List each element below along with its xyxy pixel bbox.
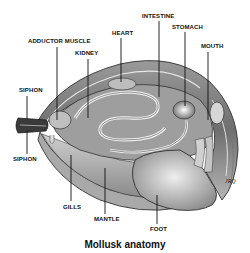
label-heart: HEART: [112, 30, 133, 37]
label-intestine: INTESTINE: [142, 13, 174, 20]
label-mantle: MANTLE: [94, 216, 120, 223]
figure-caption: Mollusk anatomy: [0, 239, 250, 250]
label-kidney: KIDNEY: [75, 50, 98, 57]
label-gills: GILLS: [63, 204, 81, 211]
label-siphon-bottom: SIPHON: [13, 156, 37, 163]
label-foot: FOOT: [150, 226, 167, 233]
label-siphon-top: SIPHON: [19, 87, 43, 94]
label-stomach: STOMACH: [172, 24, 203, 31]
label-mouth: MOUTH: [201, 43, 224, 50]
artist-signature: JRQ: [225, 178, 236, 184]
label-adductor-muscle: ADDUCTOR MUSCLE: [28, 38, 91, 45]
